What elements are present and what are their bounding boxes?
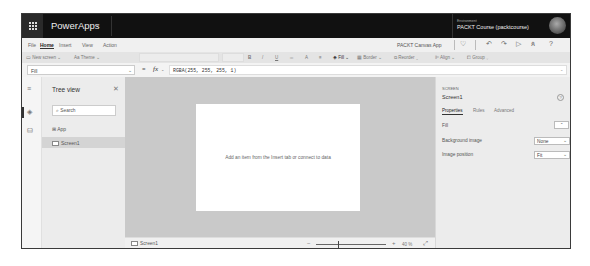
screen-icon — [131, 241, 138, 246]
app-launcher-button[interactable] — [22, 14, 43, 38]
tree-view-title: Tree view — [52, 86, 80, 93]
data-source-icon[interactable]: ⛁ — [27, 127, 33, 135]
close-icon[interactable]: ✕ — [113, 85, 119, 93]
fill-label: Fill — [442, 123, 448, 128]
tab-file[interactable]: File — [28, 42, 36, 48]
tree-view-panel: Tree view ✕ ⌕ Search ⊞ App Screen1 — [42, 77, 125, 249]
ribbon-toolbar: ▭ New screen ⌄ Aa Theme ⌄ B / U ═ A ≡ ◈ … — [22, 52, 570, 63]
divider — [454, 40, 455, 50]
divider — [475, 40, 476, 50]
font-dropdown[interactable] — [139, 53, 219, 62]
redo-icon[interactable]: ↷ — [501, 40, 507, 48]
tab-advanced[interactable]: Advanced — [494, 108, 514, 113]
border-button[interactable]: ▦ Border ⌄ — [357, 55, 382, 60]
font-color-button[interactable]: A — [305, 55, 308, 60]
user-share-icon[interactable]: ጰ — [531, 40, 535, 48]
theme-icon: Aa — [74, 55, 81, 60]
zoom-slider-thumb[interactable] — [338, 241, 339, 248]
menu-bar: File Home Insert View Action PACKT Canva… — [22, 38, 570, 52]
formula-input[interactable]: RGBA(255, 255, 255, 1) ⌄ — [169, 65, 567, 75]
control-type: SCREEN — [442, 86, 459, 91]
left-rail: ≡ ◈ ⛁ — [22, 77, 42, 249]
tab-insert[interactable]: Insert — [59, 42, 72, 48]
chevron-down-icon: ⌄ — [95, 20, 101, 28]
zoom-in-button[interactable]: + — [392, 240, 396, 246]
strikethrough-button[interactable]: ═ — [290, 55, 293, 60]
italic-button[interactable]: / — [262, 55, 263, 60]
image-position-label: Image position — [442, 152, 473, 157]
zoom-slider[interactable] — [316, 244, 386, 245]
formula-bar: Fill ⌄ = fx ⌄ RGBA(255, 255, 255, 1) ⌄ — [22, 63, 570, 77]
screen-preview[interactable]: Add an item from the Insert tab or conne… — [196, 104, 360, 211]
fill-color-picker[interactable]: ⌃ — [554, 121, 569, 129]
font-size-dropdown[interactable] — [222, 53, 244, 62]
zoom-value: 40 % — [402, 242, 412, 247]
avatar[interactable] — [549, 17, 566, 34]
tree-item-app[interactable]: ⊞ App — [42, 123, 125, 134]
text-align-button[interactable]: ≡ — [319, 55, 322, 60]
chevron-down-icon[interactable]: ⌄ — [161, 67, 164, 72]
fill-button[interactable]: ◈ Fill ⌄ — [333, 55, 349, 60]
tab-view[interactable]: View — [82, 42, 93, 48]
empty-screen-message: Add an item from the Insert tab or conne… — [196, 155, 360, 160]
property-dropdown[interactable]: Fill ⌄ — [27, 65, 135, 75]
equals-sign: = — [142, 66, 146, 72]
fx-icon[interactable]: fx — [153, 65, 158, 73]
tab-properties[interactable]: Properties — [442, 108, 463, 115]
tree-item-screen1[interactable]: Screen1 — [42, 137, 125, 148]
screen-icon — [52, 141, 59, 146]
fit-to-window-icon[interactable]: ⤢ — [423, 240, 428, 247]
app-title: PACKT Canvas App — [397, 42, 442, 48]
underline-button[interactable]: U — [275, 55, 278, 60]
tab-home[interactable]: Home — [40, 42, 54, 49]
hamburger-menu-icon[interactable]: ≡ — [27, 85, 31, 92]
play-icon[interactable]: ▷ — [516, 40, 521, 48]
image-position-dropdown[interactable]: Fit ⌄ — [534, 151, 570, 159]
search-input[interactable]: ⌕ Search — [52, 105, 116, 116]
layers-icon[interactable]: ◈ — [27, 108, 32, 116]
background-image-label: Background image — [442, 138, 482, 143]
top-bar: PowerApps ⌄ Environment PACKT Course (pa… — [22, 14, 570, 38]
control-name: Screen1 — [442, 94, 463, 100]
bold-button[interactable]: B — [248, 55, 251, 60]
reorder-button[interactable]: ⧉ Reorder ⌄ — [394, 55, 418, 60]
waffle-icon — [29, 22, 37, 30]
help-icon[interactable]: ? — [549, 40, 553, 47]
help-icon[interactable]: ? — [557, 94, 564, 101]
environment-picker[interactable]: Environment PACKT Course (packtcourse) — [452, 14, 544, 38]
chevron-down-icon: ⌄ — [563, 152, 567, 157]
app-name[interactable]: PowerApps — [51, 20, 100, 31]
stethoscope-icon[interactable]: ♡ — [460, 40, 466, 48]
environment-name: PACKT Course (packtcourse) — [457, 24, 544, 30]
tab-rules[interactable]: Rules — [473, 108, 485, 113]
zoom-out-button[interactable]: − — [307, 240, 311, 246]
theme-button[interactable]: Aa Theme ⌄ — [74, 55, 100, 60]
active-indicator — [22, 107, 24, 118]
group-button[interactable]: ⧠ Group ⌄ — [467, 55, 488, 60]
chevron-down-icon: ⌄ — [563, 138, 567, 143]
current-screen-selector[interactable]: Screen1 — [131, 241, 158, 246]
align-button[interactable]: ⊫ Align ⌄ — [435, 55, 455, 60]
undo-icon[interactable]: ↶ — [486, 40, 492, 48]
canvas-status-bar: Screen1 − + 40 % ⤢ — [125, 237, 435, 249]
new-screen-button[interactable]: ▭ New screen ⌄ — [26, 55, 61, 60]
canvas-area: Add an item from the Insert tab or conne… — [125, 77, 435, 237]
powerapps-window: PowerApps ⌄ Environment PACKT Course (pa… — [21, 13, 571, 249]
expand-formula-icon[interactable]: ⌄ — [560, 67, 563, 72]
tab-action[interactable]: Action — [103, 42, 117, 48]
chevron-down-icon: ⌄ — [128, 67, 132, 73]
background-image-dropdown[interactable]: None ⌄ — [534, 137, 570, 145]
environment-label: Environment — [457, 19, 544, 23]
properties-panel: SCREEN Screen1 ? Properties Rules Advanc… — [435, 77, 571, 249]
divider — [111, 16, 112, 36]
